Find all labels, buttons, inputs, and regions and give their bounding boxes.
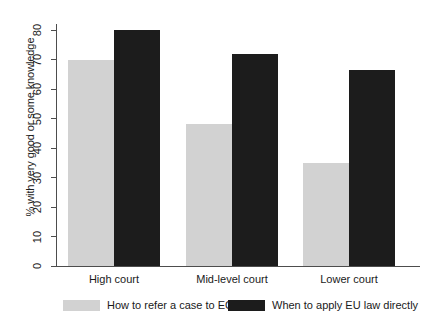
legend-label: How to refer a case to ECJ (107, 298, 238, 312)
legend-label: When to apply EU law directly (272, 298, 418, 312)
chart-legend: How to refer a case to ECJWhen to apply … (0, 296, 434, 316)
legend-item: When to apply EU law directly (228, 296, 418, 314)
legend-swatch (228, 300, 265, 311)
bar (114, 30, 160, 266)
bar (349, 70, 395, 266)
x-axis-line (56, 266, 420, 267)
legend-item: How to refer a case to ECJ (63, 296, 238, 314)
bar (232, 54, 278, 266)
x-axis-category-label: Lower court (279, 272, 419, 286)
bar (186, 124, 232, 266)
legend-swatch (63, 300, 100, 311)
bar (68, 60, 114, 267)
plot-area (0, 0, 434, 266)
bar-chart: % with very good or some knowledge 01020… (0, 0, 434, 322)
bar (303, 163, 349, 266)
